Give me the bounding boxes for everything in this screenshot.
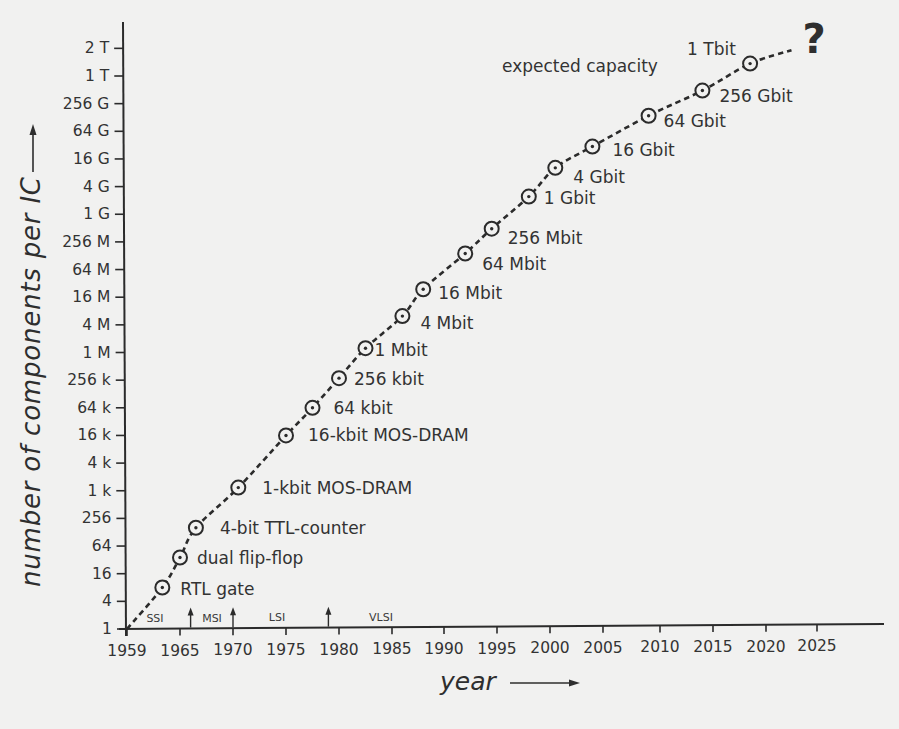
x-axis-tick-label: 2025 <box>797 637 836 655</box>
marker-center-dot <box>490 227 493 230</box>
marker-center-dot <box>527 195 530 198</box>
data-point-label: 1 Tbit <box>687 39 736 59</box>
marker-center-dot <box>591 145 594 148</box>
x-axis-tick-label: 1985 <box>372 640 411 658</box>
marker-center-dot <box>422 288 425 291</box>
y-axis-tick-label: 256 k <box>67 371 111 389</box>
y-axis-tick-label: 64 <box>92 537 112 555</box>
chart: 1416642561 k4 k16 k64 k256 k1 M4 M16 M64… <box>0 0 899 729</box>
data-point-label: RTL gate <box>180 579 254 599</box>
y-axis-tick-label: 64 M <box>72 261 110 279</box>
data-point-label: 16 Mbit <box>438 283 502 303</box>
era-label: LSI <box>269 611 285 624</box>
marker-center-dot <box>194 526 197 529</box>
marker-center-dot <box>178 556 181 559</box>
data-point-label: dual flip-flop <box>197 548 303 568</box>
era-label: MSI <box>202 612 222 625</box>
y-axis-tick-label: 1 T <box>85 67 110 85</box>
x-axis-tick-label: 1965 <box>160 642 199 660</box>
marker-center-dot <box>401 314 404 317</box>
data-point-label: 4 Gbit <box>573 167 625 187</box>
y-axis-tick-label: 1 M <box>82 344 110 362</box>
x-axis-tick-label: 2020 <box>746 638 785 656</box>
marker-center-dot <box>237 486 240 489</box>
data-point: 16-kbit MOS-DRAM <box>279 425 469 445</box>
marker-center-dot <box>311 406 314 409</box>
data-point-label: 64 kbit <box>334 398 393 418</box>
y-axis-tick-label: 4 k <box>87 454 111 472</box>
y-axis-tick-label: 16 G <box>73 150 110 168</box>
y-axis-tick-label: 64 G <box>73 122 110 140</box>
data-point-label: 4-bit TTL-counter <box>220 518 366 538</box>
y-axis-tick-label: 1 k <box>88 482 112 500</box>
marker-center-dot <box>364 347 367 350</box>
y-axis-tick-label: 256 G <box>63 95 110 113</box>
era-label: SSI <box>146 612 163 625</box>
data-point-label: 256 Mbit <box>508 228 583 248</box>
x-axis-tick-label: 1970 <box>213 641 252 659</box>
marker-center-dot <box>284 434 287 437</box>
x-axis-tick-label: 1990 <box>424 640 463 658</box>
data-point-label: 1 Mbit <box>375 340 428 360</box>
data-point-label: 4 Mbit <box>420 313 473 333</box>
y-axis-tick-label: 16 M <box>72 288 110 306</box>
expected-capacity-annotation: expected capacity <box>502 56 658 76</box>
x-axis-tick-label: 1995 <box>477 640 516 658</box>
marker-center-dot <box>161 586 164 589</box>
x-axis-tick-label: 1975 <box>266 641 305 659</box>
data-point-label: 16-kbit MOS-DRAM <box>308 425 469 445</box>
data-point-label: 64 Mbit <box>482 254 546 274</box>
y-axis-title-text: number of components per IC <box>16 176 46 587</box>
y-axis-title: number of components per IC <box>16 124 46 587</box>
y-axis-tick-label: 1 <box>102 620 112 638</box>
y-axis-tick-label: 16 k <box>77 426 111 444</box>
y-axis-tick-label: 2 T <box>85 39 110 57</box>
data-point-label: 256 kbit <box>354 369 424 389</box>
x-axis-tick-label: 2000 <box>530 639 569 657</box>
y-axis-tick-label: 1 G <box>83 205 110 223</box>
y-axis-tick-label: 256 <box>82 509 112 527</box>
y-axis-tick-label: 16 <box>92 565 112 583</box>
marker-center-dot <box>748 62 751 65</box>
y-axis-tick-label: 4 <box>102 592 112 610</box>
x-axis-tick-label: 2010 <box>640 638 679 656</box>
era-label: VLSI <box>369 611 393 624</box>
y-axis-tick-label: 4 G <box>83 178 110 196</box>
question-mark-annotation: ? <box>802 16 825 62</box>
y-axis-tick-label: 64 k <box>77 399 111 417</box>
x-axis-tick-label: 1980 <box>319 641 358 659</box>
x-axis-tick-label: 1959 <box>107 642 146 660</box>
marker-center-dot <box>464 252 467 255</box>
y-axis-tick-label: 4 M <box>82 316 110 334</box>
x-axis-tick-label: 2005 <box>583 639 622 657</box>
y-axis-tick-label: 256 M <box>62 233 110 251</box>
marker-center-dot <box>554 166 557 169</box>
data-point-label: 256 Gbit <box>719 86 793 106</box>
marker-center-dot <box>647 114 650 117</box>
data-point-label: 64 Gbit <box>664 111 727 131</box>
data-point-label: 16 Gbit <box>612 140 675 160</box>
data-point-label: 1 Gbit <box>544 188 596 208</box>
x-axis-title-text: year <box>439 667 497 696</box>
data-point-label: 1-kbit MOS-DRAM <box>262 478 412 498</box>
marker-center-dot <box>337 376 340 379</box>
x-axis-tick-label: 2015 <box>693 638 732 656</box>
marker-center-dot <box>701 89 704 92</box>
